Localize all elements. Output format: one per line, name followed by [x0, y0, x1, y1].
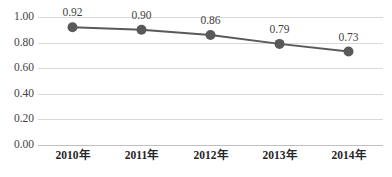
- y-tick-label: 0.80: [14, 37, 34, 49]
- y-tick-label: 0.00: [14, 139, 34, 151]
- data-point-marker: [344, 47, 354, 57]
- gridline: [38, 145, 383, 146]
- line-chart: 0.000.200.400.600.801.00 0.920.900.860.7…: [0, 0, 392, 177]
- y-tick-label: 0.20: [14, 113, 34, 125]
- data-label: 0.79: [269, 24, 289, 36]
- data-label: 0.86: [200, 15, 220, 27]
- x-tick-label: 2012年: [194, 150, 228, 162]
- data-point-marker: [206, 30, 216, 40]
- x-tick-label: 2010年: [56, 150, 90, 162]
- y-tick-label: 1.00: [14, 11, 34, 23]
- data-label: 0.90: [131, 10, 151, 22]
- series-line-group: [38, 17, 383, 145]
- data-point-marker: [137, 25, 147, 35]
- x-tick-label: 2011年: [125, 150, 158, 162]
- y-tick-label: 0.60: [14, 62, 34, 74]
- y-tick-label: 0.40: [14, 88, 34, 100]
- data-label: 0.92: [62, 7, 82, 19]
- x-tick-label: 2013年: [263, 150, 297, 162]
- plot-area: 0.920.900.860.790.73: [38, 17, 383, 145]
- data-point-marker: [275, 39, 285, 49]
- x-axis-tick-labels: 2010年2011年2012年2013年2014年: [38, 150, 383, 172]
- data-label: 0.73: [338, 32, 358, 44]
- x-tick-label: 2014年: [332, 150, 366, 162]
- data-point-marker: [68, 22, 78, 32]
- series-markers: [68, 22, 354, 56]
- y-axis-tick-labels: 0.000.200.400.600.801.00: [0, 0, 34, 177]
